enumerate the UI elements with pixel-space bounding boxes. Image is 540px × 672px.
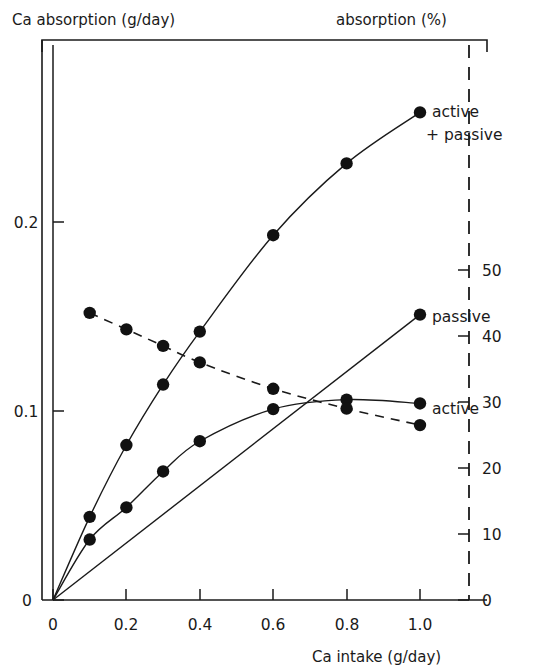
y2-tick-label-0: 0	[482, 592, 492, 610]
x-tick-label-1.0: 1.0	[408, 616, 433, 634]
series-label-active: active	[432, 400, 479, 418]
data-point-marker	[84, 511, 96, 523]
y-tick-label-0.2: 0.2	[14, 214, 39, 232]
plot-frame-top	[42, 40, 487, 52]
series-label-active-passive-line1: active	[432, 103, 479, 121]
y2-tick-label-30: 30	[482, 394, 502, 412]
y-tick-label-0.1: 0.1	[14, 403, 39, 421]
chart-figure: Ca absorption (g/day) absorption (%) Ca …	[0, 0, 540, 672]
y-axis-title: Ca absorption (g/day)	[12, 11, 175, 29]
data-point-marker	[414, 419, 426, 431]
series-line-passive	[53, 315, 420, 600]
data-point-marker	[157, 378, 169, 390]
data-point-marker	[120, 323, 132, 335]
y2-tick-label-40: 40	[482, 328, 502, 346]
data-point-marker	[157, 465, 169, 477]
data-point-marker	[414, 106, 426, 118]
data-point-marker	[414, 397, 426, 409]
y-tick-label-0: 0	[22, 592, 32, 610]
y2-axis-title: absorption (%)	[336, 11, 447, 29]
y2-tick-label-20: 20	[482, 460, 502, 478]
data-series-layer	[53, 106, 426, 600]
data-point-marker	[340, 402, 352, 414]
series-label-active-passive-line2: + passive	[426, 126, 502, 144]
series-line-absorption-percentage	[90, 313, 420, 425]
x-tick-label-0.6: 0.6	[261, 616, 286, 634]
data-point-marker	[194, 325, 206, 337]
data-point-marker	[120, 501, 132, 513]
y2-tick-label-10: 10	[482, 526, 502, 544]
series-line-active-passive	[53, 112, 420, 600]
x-tick-label-0.2: 0.2	[114, 616, 139, 634]
data-point-marker	[84, 307, 96, 319]
data-point-marker	[194, 356, 206, 368]
data-point-marker	[414, 308, 426, 320]
data-point-marker	[267, 383, 279, 395]
data-point-marker	[84, 533, 96, 545]
x-axis-title: Ca intake (g/day)	[312, 648, 441, 666]
data-point-marker	[120, 439, 132, 451]
data-point-marker	[267, 229, 279, 241]
data-point-marker	[194, 435, 206, 447]
series-label-passive: passive	[432, 308, 491, 326]
data-point-marker	[267, 403, 279, 415]
data-point-marker	[157, 340, 169, 352]
data-point-marker	[340, 157, 352, 169]
x-tick-label-0: 0	[48, 616, 58, 634]
series-line-active	[53, 400, 420, 600]
x-tick-label-0.4: 0.4	[188, 616, 213, 634]
y2-tick-label-50: 50	[482, 262, 502, 280]
x-tick-label-0.8: 0.8	[335, 616, 360, 634]
